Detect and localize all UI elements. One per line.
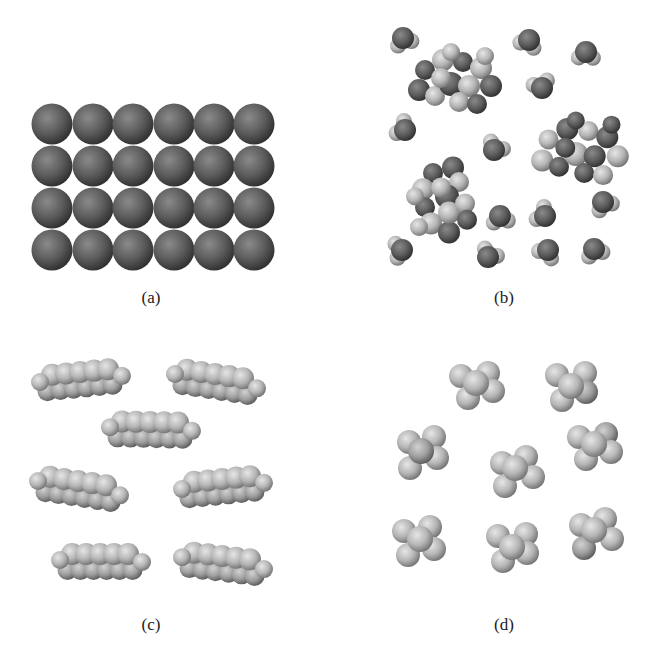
panel-c-label: (c) — [142, 615, 161, 635]
panel-d-small-molecules — [392, 361, 624, 573]
panel-b-water-molecules — [387, 27, 628, 268]
panel-a-label: (a) — [142, 288, 161, 308]
panel-a-metal-lattice — [32, 104, 275, 271]
molecular-figure — [0, 0, 654, 653]
panel-d-label: (d) — [494, 615, 514, 635]
panel-c-hydrocarbon-molecules — [29, 358, 273, 586]
panel-b-label: (b) — [494, 288, 514, 308]
